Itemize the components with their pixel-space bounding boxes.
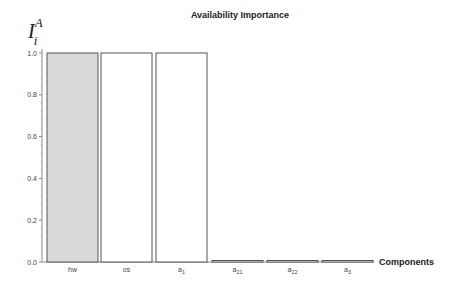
y-tick-label: 0.4 xyxy=(27,175,37,182)
bar-a1 xyxy=(156,53,207,262)
x-tick-label: hw xyxy=(68,266,78,273)
x-tick-label: a21 xyxy=(232,266,242,275)
y-tick-label: 1.0 xyxy=(27,50,37,57)
x-tick-label: a22 xyxy=(287,266,297,275)
bar-os xyxy=(101,53,152,262)
x-tick-label: a3 xyxy=(344,266,351,275)
bar-a22 xyxy=(267,261,318,263)
y-tick-label: 0.0 xyxy=(27,259,37,266)
x-axis-label: Components xyxy=(379,257,434,267)
x-tick-label: os xyxy=(123,266,131,273)
y-tick-label: 0.6 xyxy=(27,133,37,140)
x-tick-label: a1 xyxy=(178,266,185,275)
bar-a21 xyxy=(212,261,263,263)
y-tick-label: 0.2 xyxy=(27,217,37,224)
bar-hw xyxy=(47,53,98,262)
bar-a3 xyxy=(322,261,373,263)
y-tick-label: 0.8 xyxy=(27,91,37,98)
bar-chart: 0.00.20.40.60.81.0Componentshwosa1a21a22… xyxy=(0,0,450,285)
